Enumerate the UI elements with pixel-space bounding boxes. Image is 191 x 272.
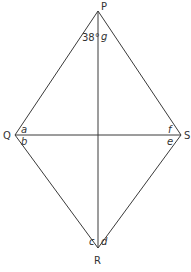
side-qr: [15, 135, 98, 248]
side-sr: [98, 135, 181, 248]
angle-label-b: b: [21, 136, 27, 147]
vertex-label-s: S: [184, 130, 190, 141]
side-ps: [98, 11, 181, 135]
angle-label-g: g: [101, 31, 107, 42]
angle-label-e: e: [167, 136, 173, 147]
side-pq: [15, 11, 98, 135]
angle-label-a: a: [21, 124, 27, 135]
rhombus-diagram: P Q R S 38° g a b f e c d: [0, 0, 191, 272]
angle-label-c: c: [89, 236, 95, 247]
vertex-label-r: R: [94, 255, 101, 266]
vertex-label-p: P: [101, 1, 107, 12]
angle-label-f: f: [168, 124, 173, 135]
angle-label-d: d: [101, 236, 108, 247]
angle-label-38: 38°: [82, 32, 100, 43]
vertex-label-q: Q: [3, 130, 11, 141]
